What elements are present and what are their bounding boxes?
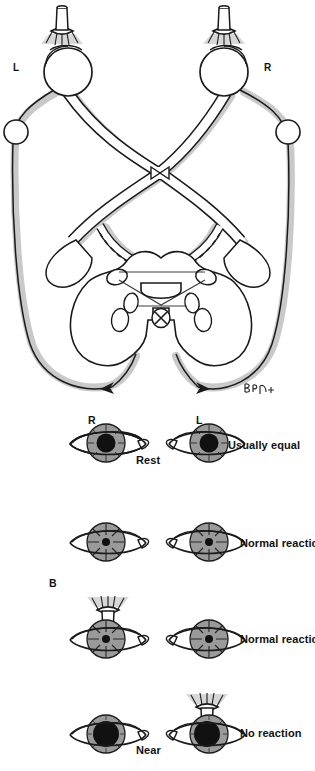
- label-right-eye: R: [264, 63, 272, 73]
- eye-near-right: [166, 715, 245, 753]
- penlight-top-left: [41, 6, 83, 45]
- eyeball-right: [200, 46, 248, 97]
- panel-label-b: B: [49, 578, 57, 589]
- eyeball-left: [44, 46, 92, 97]
- illustration-svg: [0, 0, 315, 771]
- label-normal-reaction-1: Normal reaction: [240, 538, 315, 549]
- midbrain-section: [70, 252, 251, 366]
- aqueduct-x-marker: [152, 309, 170, 328]
- label-no-reaction: No reaction: [240, 728, 302, 739]
- label-rest: Rest: [136, 455, 160, 466]
- ciliary-ganglion-left: [4, 120, 28, 144]
- penlight-top-right: [203, 6, 245, 45]
- row-light-left: [70, 523, 245, 635]
- column-header-right-eye: R: [88, 415, 96, 426]
- label-near: Near: [136, 745, 161, 756]
- lateral-geniculate-left: [46, 240, 92, 287]
- figure-canvas: L R R L B Rest Near Usually equal Normal…: [0, 0, 315, 771]
- reflex-pathway-diagram: [4, 6, 300, 394]
- label-left-eye: L: [13, 63, 19, 73]
- eye-light-right-consensual: [70, 620, 149, 658]
- eye-light-left-consensual: [166, 523, 245, 561]
- optic-chiasm: [151, 167, 169, 179]
- label-usually-equal: Usually equal: [228, 440, 300, 451]
- row-light-right: [70, 620, 245, 732]
- ciliary-ganglion-right: [276, 120, 300, 144]
- column-header-left-eye: L: [196, 415, 203, 426]
- label-normal-reaction-2: Normal reaction: [240, 634, 315, 645]
- tract-shadow-layer: [15, 92, 291, 387]
- eye-light-right: [166, 620, 245, 658]
- artist-signature: [245, 384, 274, 394]
- eye-light-left: [70, 523, 149, 561]
